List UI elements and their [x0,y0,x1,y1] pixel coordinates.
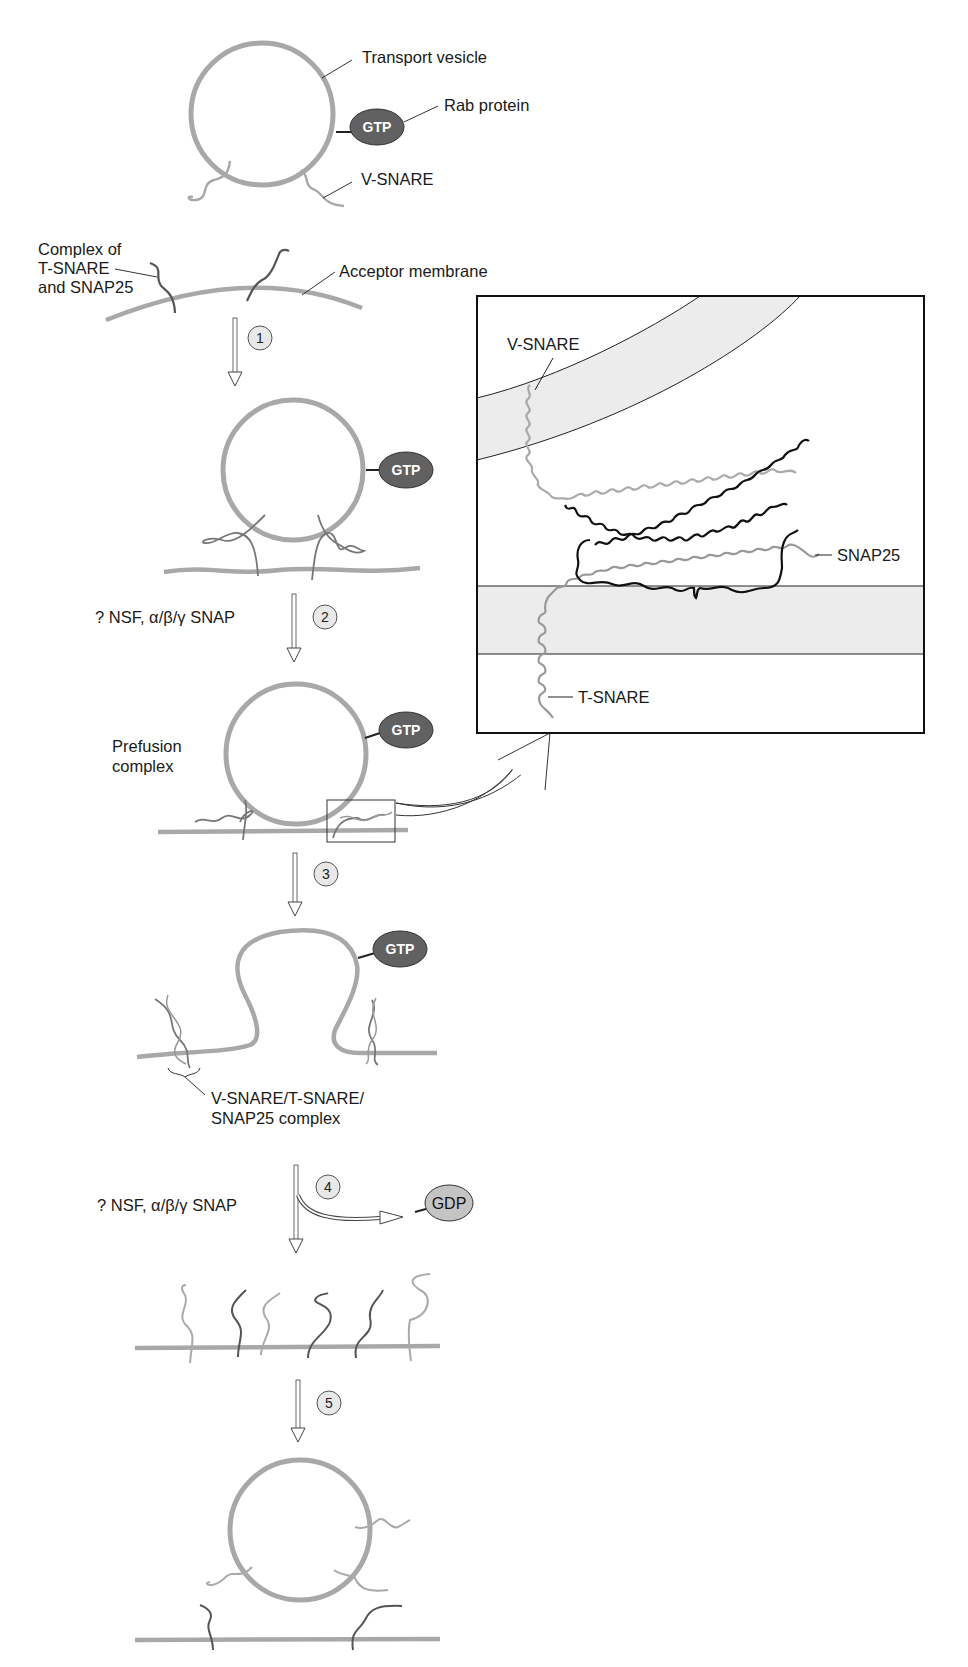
gtp-label: GTP [363,119,392,135]
stage-1-docking [164,400,433,580]
label-nsf-snap-step2: ? NSF, α/β/γ SNAP [95,608,235,627]
gtp-label: GTP [386,941,415,957]
inset-label-t-snare: T-SNARE [578,688,650,707]
acceptor-membrane [106,288,362,320]
step-4-number: 4 [324,1179,332,1195]
label-transport-vesicle: Transport vesicle [362,48,487,67]
transport-vesicle-membrane [191,43,333,185]
v-snare-left-icon [189,161,230,200]
step-5-number: 5 [325,1395,333,1411]
inset-snare-complex [477,296,924,733]
stage-2-prefusion [158,684,550,842]
step-2-number: 2 [321,609,329,625]
step-1-arrow [228,318,272,386]
label-nsf-snap-step4: ? NSF, α/β/γ SNAP [97,1196,237,1215]
label-acceptor-membrane: Acceptor membrane [339,262,488,281]
v-snare-right-icon [301,170,344,206]
snare-fusion-diagram: GTP GTP GTP GTP GDP 1 2 3 4 5 [0,0,968,1667]
stage-4-free-snares [135,1274,440,1363]
zoom-region-box [327,800,395,842]
gtp-label: GTP [392,722,421,738]
t-snare-right-icon [247,250,289,301]
step-2-arrow [287,594,337,662]
label-rab-protein: Rab protein [444,96,529,115]
inset-label-v-snare: V-SNARE [507,335,579,354]
label-complex-line2: T-SNARE [38,259,110,278]
acceptor-membrane-stage [106,250,362,320]
label-complex-line3: and SNAP25 [38,278,133,297]
label-snare-complex-line1: V-SNARE/T-SNARE/ [211,1089,364,1108]
label-complex-line1: Complex of [38,240,121,259]
step-3-number: 3 [322,866,330,882]
inset-label-snap25: SNAP25 [837,546,900,565]
step-5-arrow [291,1380,341,1442]
gdp-label: GDP [432,1195,467,1212]
label-snare-complex-line2: SNAP25 complex [211,1109,340,1128]
step-1-number: 1 [256,330,264,346]
label-prefusion-line1: Prefusion [112,737,182,756]
stage-5-recycled [135,1460,440,1650]
label-v-snare: V-SNARE [361,170,433,189]
step-3-arrow [288,853,338,916]
label-prefusion-line2: complex [112,757,173,776]
gtp-label: GTP [392,462,421,478]
